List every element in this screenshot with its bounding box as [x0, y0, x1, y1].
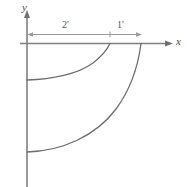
dimension-label-1ft: 1' [117, 20, 124, 30]
math-figure: y x 2' 1' [0, 0, 187, 187]
figure-canvas [0, 0, 187, 187]
x-axis-arrow-icon [165, 41, 173, 47]
upper-arc-curve [27, 44, 110, 81]
x-axis-label: x [176, 36, 181, 47]
lower-arc-curve [27, 44, 141, 153]
y-axis-label: y [22, 2, 27, 13]
dimension-arrow-right-icon [136, 32, 142, 37]
dimension-label-2ft: 2' [62, 20, 69, 30]
dimension-arrow-left-icon [27, 32, 33, 37]
